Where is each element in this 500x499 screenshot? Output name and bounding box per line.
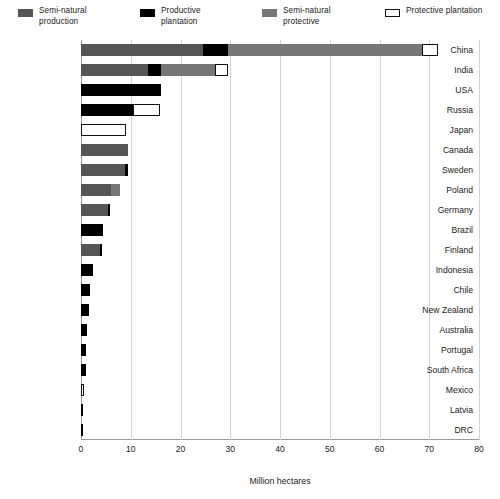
y-axis-label-germany: Germany [353,200,473,220]
x-axis-title: Million hectares [81,476,479,486]
y-axis-label-india: India [353,60,473,80]
gridline-80 [479,40,480,440]
legend-item-prod-plant: Productive plantation [140,6,201,27]
bar-segment-prod-plant [100,244,102,256]
legend-item-prot-plant: Protective plantation [385,6,482,17]
y-axis-label-chile: Chile [353,280,473,300]
y-axis-label-south-africa: South Africa [353,360,473,380]
x-tick-label-30: 30 [225,444,235,454]
bar-segment-prod-plant [148,64,160,76]
bar-segment-sn-prod [81,44,203,56]
x-tick-label-80: 80 [474,444,484,454]
legend-item-sn-prod: Semi-natural production [18,6,87,27]
legend-label-sn-prot: Semi-natural protective [283,6,331,27]
bar-segment-prod-plant [81,404,83,416]
legend-swatch-prod-plant [140,9,155,17]
x-tick-label-0: 0 [79,444,84,454]
legend-label-prot-plant: Protective plantation [406,6,482,17]
y-axis-label-japan: Japan [353,120,473,140]
y-axis-label-new-zealand: New Zealand [353,300,473,320]
y-axis-label-usa: USA [353,80,473,100]
y-axis-label-brazil: Brazil [353,220,473,240]
bar-segment-prod-plant [81,424,83,436]
bar-segment-prot-plant [215,64,227,76]
bar-segment-prod-plant [81,104,133,116]
bar-segment-sn-prod [81,144,128,156]
bar-segment-prod-plant [125,164,128,176]
y-axis-label-portugal: Portugal [353,340,473,360]
bar-segment-prot-plant [81,124,126,136]
y-axis-label-poland: Poland [353,180,473,200]
y-axis-label-australia: Australia [353,320,473,340]
legend-label-sn-prod: Semi-natural production [39,6,87,27]
y-axis-label-china: China [353,40,473,60]
x-tick-label-50: 50 [325,444,335,454]
bar-segment-prod-plant [81,324,87,336]
legend-swatch-sn-prot [262,9,277,17]
bar-segment-prod-plant [108,204,110,216]
bar-segment-prod-plant [81,304,89,316]
y-axis-label-russia: Russia [353,100,473,120]
bar-segment-sn-prot [111,184,120,196]
bar-chart: Semi-natural productionProductive planta… [0,0,500,499]
bar-segment-prod-plant [203,44,228,56]
y-axis-label-finland: Finland [353,240,473,260]
bar-segment-prod-plant [81,264,93,276]
bar-segment-prot-plant [133,104,159,116]
y-axis-label-mexico: Mexico [353,380,473,400]
y-axis-label-sweden: Sweden [353,160,473,180]
x-tick-label-60: 60 [375,444,385,454]
y-axis-label-latvia: Latvia [353,400,473,420]
bar-segment-prod-plant [81,84,161,96]
bar-segment-sn-prod [81,164,125,176]
plot-area: ChinaIndiaUSARussiaJapanCanadaSwedenPola… [81,40,479,440]
y-axis-label-drc: DRC [353,420,473,440]
x-tick-label-20: 20 [176,444,186,454]
bar-segment-sn-prot [161,64,216,76]
legend-swatch-sn-prod [18,9,33,17]
legend-swatch-prot-plant [385,9,400,17]
bar-segment-sn-prod [81,184,111,196]
bar-segment-sn-prod [81,204,108,216]
x-tick-label-40: 40 [275,444,285,454]
bar-segment-sn-prod [81,64,148,76]
bar-segment-prod-plant [81,344,86,356]
x-tick-label-10: 10 [126,444,136,454]
bar-segment-prot-plant [81,384,84,396]
bar-segment-prod-plant [81,224,103,236]
y-axis-label-indonesia: Indonesia [353,260,473,280]
x-tick-label-70: 70 [424,444,434,454]
bar-segment-prod-plant [81,364,86,376]
bar-segment-sn-prod [81,244,100,256]
legend-label-prod-plant: Productive plantation [161,6,201,27]
bar-segment-prod-plant [81,284,90,296]
y-axis-label-canada: Canada [353,140,473,160]
chart-legend: Semi-natural productionProductive planta… [0,6,500,38]
legend-item-sn-prot: Semi-natural protective [262,6,331,27]
